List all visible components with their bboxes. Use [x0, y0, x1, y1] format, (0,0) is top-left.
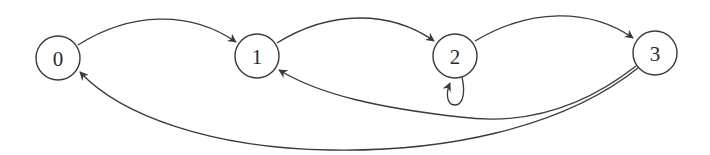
node-2-label: 2 — [450, 45, 461, 69]
edge-0-to-1 — [78, 19, 236, 45]
node-1-label: 1 — [252, 45, 263, 69]
node-0-label: 0 — [53, 47, 64, 71]
node-2: 2 — [433, 34, 477, 78]
edge-1-to-2 — [277, 18, 434, 43]
node-0: 0 — [36, 36, 80, 80]
edge-3-to-0 — [80, 68, 638, 150]
edge-2-to-3 — [475, 16, 633, 41]
node-3: 3 — [633, 31, 677, 75]
state-diagram: 0 1 2 3 — [0, 0, 710, 155]
diagram-svg: 0 1 2 3 — [0, 0, 710, 155]
node-1: 1 — [235, 34, 279, 78]
node-3-label: 3 — [650, 42, 661, 66]
edge-2-self-loop — [447, 77, 463, 105]
